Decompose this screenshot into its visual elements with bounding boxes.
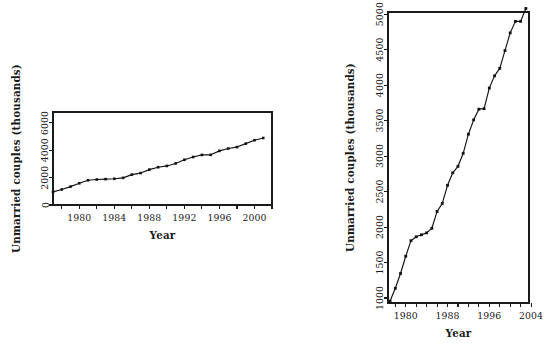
x-axis-tick-label: 1980 [394,310,418,321]
x-axis-tick-label: 2004 [519,310,543,321]
x-axis-tick-label: 1980 [67,212,91,223]
data-point-marker [519,20,522,23]
data-point-marker [467,133,470,136]
y-axis-tick-label: 0 [40,202,51,208]
data-point-marker [477,108,480,111]
data-point-marker [218,150,221,153]
y-axis-tick-label: 4000 [40,138,51,162]
y-axis-tick-label: 3000 [375,144,386,168]
data-point-marker [410,239,413,242]
data-point-marker [493,74,496,77]
data-point-marker [404,255,407,258]
y-axis-tick-label: 1500 [375,251,386,275]
data-point-marker [509,31,512,34]
data-point-marker [78,182,81,185]
data-point-marker [236,146,239,149]
x-axis-tick-label: 1992 [172,212,196,223]
data-point-marker [472,118,475,121]
data-point-marker [262,137,265,140]
x-axis-title: Year [445,327,472,339]
x-axis-tick-label: 2000 [242,212,266,223]
chart-panel-right: 1000150020002500300035004000450050001980… [274,0,548,350]
data-point-marker [436,210,439,213]
data-point-marker [122,177,125,180]
y-axis-tick-label: 6000 [40,111,51,135]
plot-box-frame [388,12,529,303]
data-point-marker [157,166,160,169]
data-point-marker [131,173,134,176]
data-point-marker [415,235,418,238]
x-axis-tick-label: 1988 [137,212,161,223]
data-series-line [390,8,526,301]
y-axis-tick-label: 3500 [375,109,386,133]
x-axis-tick-label: 1984 [102,212,126,223]
y-axis-tick-label: 2000 [40,166,51,190]
data-point-marker [139,172,142,175]
data-point-marker [451,171,454,174]
data-point-marker [504,49,507,52]
x-axis-tick-label: 1996 [477,310,501,321]
data-point-marker [524,7,527,10]
data-point-marker [166,165,169,168]
data-point-marker [96,178,99,181]
data-series-line [53,138,263,192]
data-point-marker [394,287,397,290]
data-point-marker [457,165,460,168]
y-axis-title: Unmarried couples (thousands) [344,63,356,252]
y-axis-tick-label: 4000 [375,73,386,97]
data-point-marker [209,154,212,157]
data-point-marker [69,185,72,188]
x-axis-tick-label: 1988 [436,310,460,321]
data-point-marker [420,233,423,236]
data-point-marker [483,107,486,110]
data-point-marker [389,300,392,303]
x-axis-title: Year [149,229,176,241]
y-axis-tick-label: 2000 [375,215,386,239]
data-point-marker [399,272,402,275]
data-point-marker [514,20,517,23]
data-point-marker [441,202,444,205]
y-axis-tick-label: 5000 [375,2,386,26]
data-point-marker [87,179,90,182]
data-point-marker [113,177,116,180]
left-plot-svg: 0200040006000198019841988199219962000Yea… [0,0,274,350]
data-point-marker [60,188,63,191]
data-point-marker [201,154,204,157]
data-point-marker [253,139,256,142]
data-point-marker [104,178,107,181]
data-point-marker [498,67,501,70]
plot-box-frame [53,112,272,205]
data-point-marker [488,87,491,90]
chart-panel-left: 0200040006000198019841988199219962000Yea… [0,0,274,350]
data-point-marker [227,147,230,150]
data-point-marker [244,142,247,145]
data-point-marker [183,158,186,161]
data-point-marker [425,231,428,234]
data-point-marker [52,191,55,194]
data-point-marker [148,168,151,171]
right-plot-svg: 1000150020002500300035004000450050001980… [274,0,548,350]
data-point-marker [462,152,465,155]
y-axis-tick-label: 2500 [375,180,386,204]
y-axis-tick-label: 1000 [375,286,386,310]
x-axis-tick-label: 1996 [207,212,231,223]
data-point-marker [192,156,195,159]
y-axis-tick-label: 4500 [375,38,386,62]
data-point-marker [446,184,449,187]
data-point-marker [174,162,177,165]
data-point-marker [430,227,433,230]
y-axis-title: Unmarried couples (thousands) [10,64,22,253]
